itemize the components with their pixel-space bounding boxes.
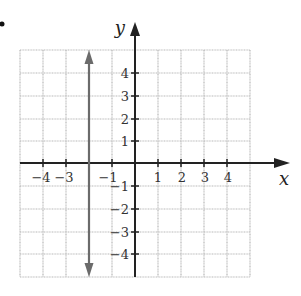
- y-tick-label: 3: [121, 89, 129, 104]
- x-tick-label: 4: [224, 170, 232, 185]
- x-axis-arrow-icon: [274, 158, 290, 168]
- line-arrow-down-icon: [85, 263, 94, 277]
- y-axis-arrow-icon: [130, 22, 140, 36]
- y-tick-label: −4: [110, 247, 129, 262]
- x-tick-label: 3: [201, 170, 209, 185]
- bullet-marker: [0, 22, 5, 27]
- x-tick-label: −3: [54, 170, 73, 185]
- x-tick-labels: −4 −3 −1 1 2 3 4: [31, 170, 232, 185]
- y-tick-label: −1: [110, 179, 129, 194]
- x-tick-label: 2: [178, 170, 186, 185]
- y-axis-label: y: [114, 17, 126, 38]
- y-tick-label: −2: [110, 202, 129, 217]
- y-tick-label: 2: [121, 112, 129, 127]
- y-tick-label: 1: [121, 134, 129, 149]
- y-axis: [130, 22, 140, 277]
- x-tick-label: −4: [31, 170, 50, 185]
- x-tick-label: 1: [154, 170, 162, 185]
- line-arrow-up-icon: [85, 50, 94, 64]
- y-tick-label: −3: [110, 225, 129, 240]
- y-tick-label: 4: [121, 66, 129, 81]
- x-axis-label: x: [279, 168, 289, 189]
- coordinate-plane: −4 −3 −1 1 2 3 4 4 3 2 1 −1 −2 −3 −4 y x: [0, 0, 301, 296]
